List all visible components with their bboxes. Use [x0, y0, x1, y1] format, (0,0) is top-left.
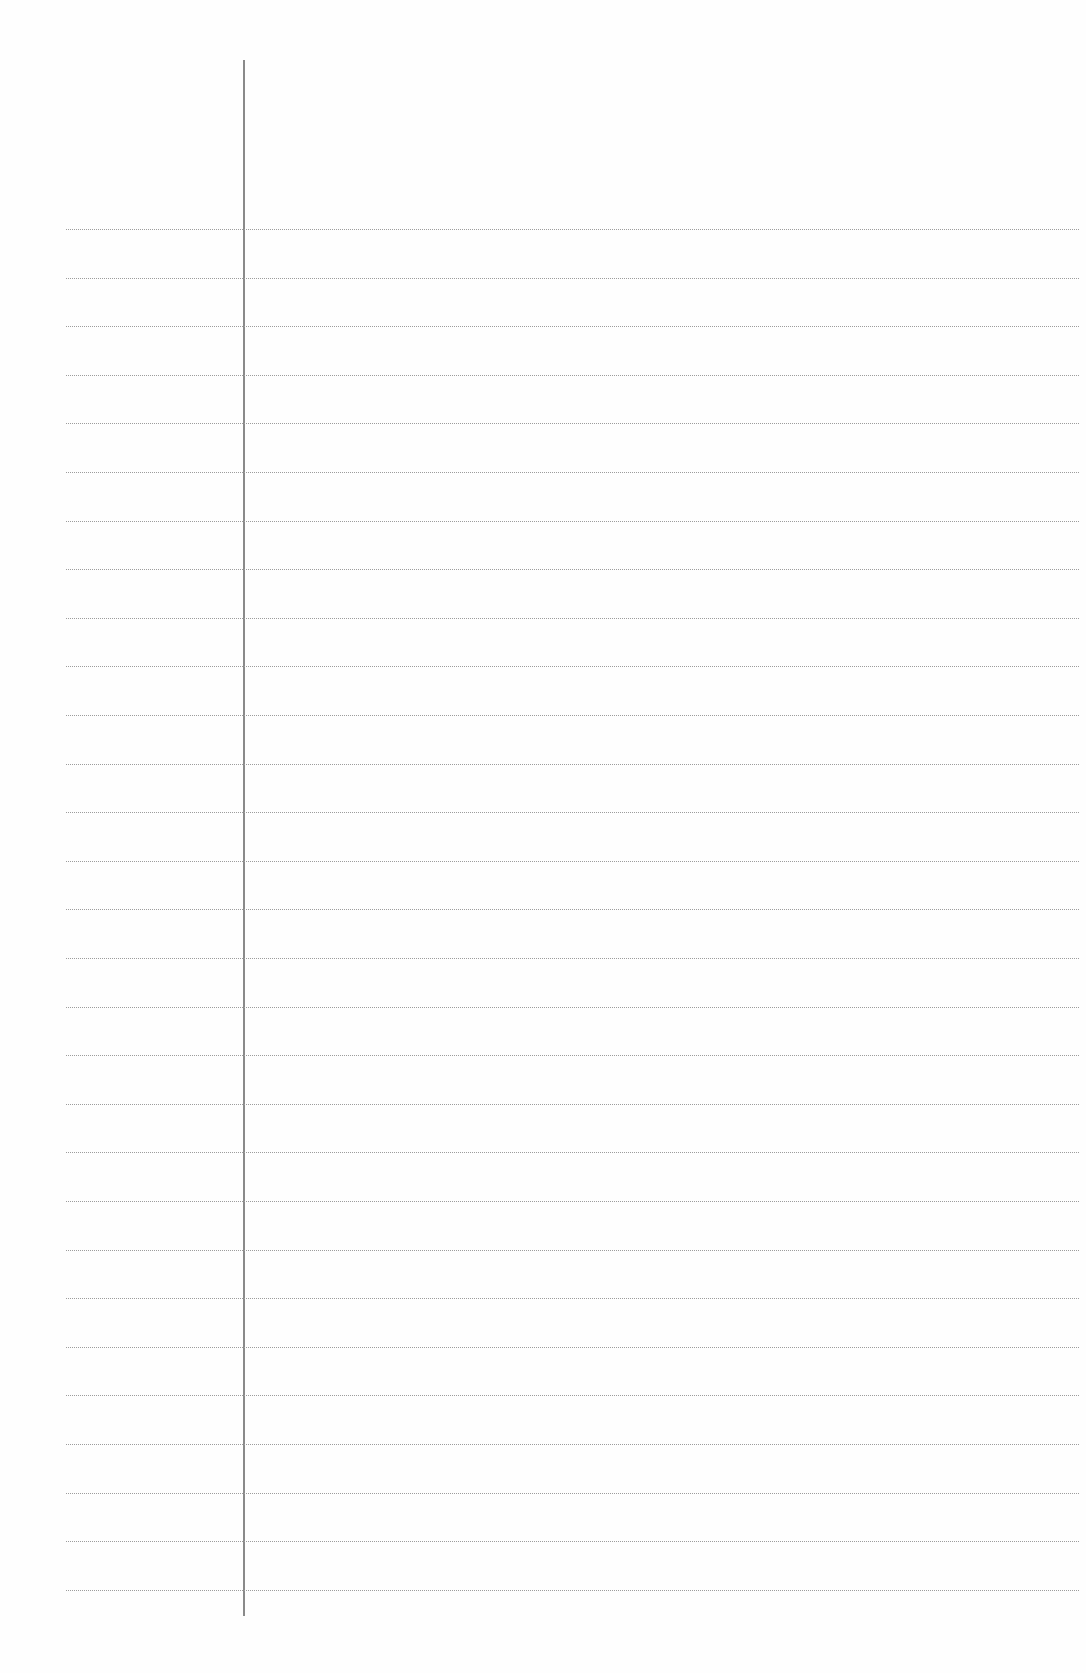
ruled-line	[66, 472, 1079, 473]
ruled-line	[66, 278, 1079, 279]
ruled-line	[66, 1395, 1079, 1396]
ruled-line	[66, 1590, 1079, 1591]
ruled-line	[66, 1152, 1079, 1153]
notebook-page	[0, 0, 1086, 1673]
ruled-line	[66, 1298, 1079, 1299]
ruled-line	[66, 861, 1079, 862]
margin-line	[243, 60, 245, 1616]
ruled-line	[66, 1250, 1079, 1251]
ruled-line	[66, 715, 1079, 716]
ruled-line	[66, 909, 1079, 910]
ruled-line	[66, 812, 1079, 813]
ruled-line	[66, 521, 1079, 522]
ruled-line	[66, 1201, 1079, 1202]
ruled-line	[66, 375, 1079, 376]
ruled-line	[66, 1444, 1079, 1445]
ruled-line	[66, 618, 1079, 619]
ruled-line	[66, 1541, 1079, 1542]
ruled-line	[66, 1104, 1079, 1105]
ruled-line	[66, 569, 1079, 570]
ruled-line	[66, 1347, 1079, 1348]
ruled-line	[66, 1055, 1079, 1056]
ruled-line	[66, 423, 1079, 424]
ruled-line	[66, 666, 1079, 667]
ruled-line	[66, 764, 1079, 765]
ruled-line	[66, 229, 1079, 230]
ruled-line	[66, 1007, 1079, 1008]
ruled-line	[66, 326, 1079, 327]
ruled-line	[66, 1493, 1079, 1494]
ruled-line	[66, 958, 1079, 959]
